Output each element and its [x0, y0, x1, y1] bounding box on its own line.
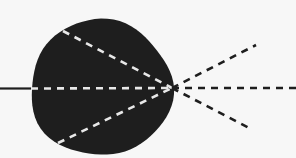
ray-diagram — [0, 0, 296, 158]
